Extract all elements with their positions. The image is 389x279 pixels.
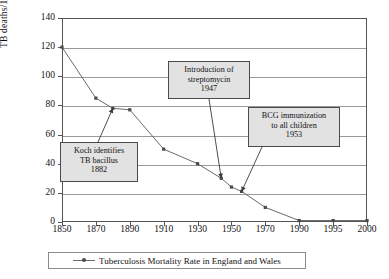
- annotation-line: Introduction of: [173, 65, 245, 75]
- data-point-marker: [298, 219, 301, 222]
- data-point-marker: [230, 185, 233, 188]
- annotation-leader-line: [98, 108, 113, 142]
- data-point-marker: [365, 219, 368, 222]
- annotation-callout-bcg: BCG immunizationto all children1953: [248, 107, 340, 147]
- annotation-line: BCG immunization: [253, 111, 335, 121]
- annotation-line: TB bacillus: [65, 156, 133, 166]
- chart-container: TB deaths/100,000 020406080100120140 185…: [0, 0, 389, 279]
- annotation-line: 1882: [65, 165, 133, 175]
- annotation-callout-koch: Koch identifiesTB bacillus1882: [60, 142, 138, 182]
- annotation-line: streptomycin: [173, 75, 245, 85]
- annotation-line: to all children: [253, 121, 335, 131]
- data-point-marker: [332, 219, 335, 222]
- data-point-marker: [264, 206, 267, 209]
- data-point-marker: [60, 46, 63, 49]
- annotation-line: 1947: [173, 84, 245, 94]
- legend-label: Tuberculosis Mortality Rate in England a…: [99, 256, 281, 266]
- data-point-marker: [162, 148, 165, 151]
- data-point-marker: [196, 162, 199, 165]
- data-point-marker: [128, 108, 131, 111]
- annotation-line: 1953: [253, 130, 335, 140]
- annotation-leader-line: [242, 147, 262, 191]
- annotation-leader-line: [209, 99, 221, 178]
- annotation-line: Koch identifies: [65, 146, 133, 156]
- data-point-marker: [94, 97, 97, 100]
- annotation-callout-streptomycin: Introduction ofstreptomycin1947: [168, 61, 250, 99]
- legend-marker-icon: [73, 256, 95, 265]
- legend: Tuberculosis Mortality Rate in England a…: [48, 252, 306, 269]
